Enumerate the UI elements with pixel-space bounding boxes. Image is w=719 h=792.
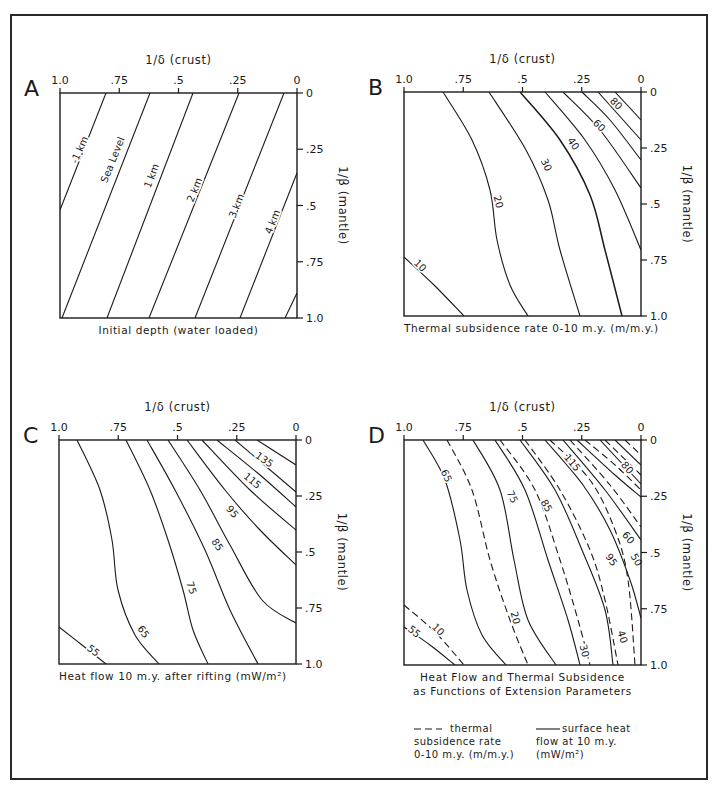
- contour-label: 20: [492, 194, 506, 209]
- contour-line-80: [625, 440, 641, 455]
- plot-frame: [59, 440, 296, 664]
- legend-solid-line1: surface heat: [562, 723, 631, 734]
- contour-label: 60: [591, 117, 608, 134]
- y-tick-label: .75: [305, 602, 323, 615]
- contour-label: 2 km: [185, 176, 205, 203]
- x-axis-label: 1/δ (crust): [144, 400, 210, 414]
- contour-line-1-km: [107, 93, 193, 318]
- y-tick-label: 1.0: [306, 312, 324, 325]
- contour-line: [147, 440, 258, 664]
- y-tick-label: .25: [650, 490, 668, 503]
- y-tick-label: 0: [306, 87, 313, 100]
- contour-label: 85: [209, 536, 225, 553]
- contour-line-60: [600, 440, 641, 484]
- contour-label: 80: [608, 95, 625, 112]
- y-axis-label: 1/β (mantle): [680, 513, 694, 592]
- contour-label: 135: [253, 450, 275, 470]
- contour-label: 40: [615, 629, 629, 645]
- x-tick-label: .5: [172, 421, 183, 434]
- panel-caption: Heat flow 10 m.y. after rifting (mW/m²): [59, 670, 287, 682]
- contour-line-20: [447, 440, 528, 665]
- contour-line: [285, 293, 297, 318]
- contours: [60, 93, 297, 318]
- y-tick-label: .5: [650, 547, 661, 560]
- y-tick-label: 0: [650, 434, 657, 447]
- figure: -1 kmSea Level1 km2 km3 km4 km1.0.75.5.2…: [0, 0, 719, 792]
- y-tick-label: 0: [650, 86, 657, 99]
- contour-label: 40: [565, 135, 581, 152]
- panel-label: A: [24, 76, 39, 101]
- contour-label: 3 km: [227, 192, 247, 219]
- contour-line-20: [443, 92, 528, 316]
- x-tick-label: .5: [517, 73, 528, 86]
- contour-line: [545, 92, 641, 250]
- contour-label: 115: [241, 470, 263, 491]
- contour-line-55: [59, 627, 106, 664]
- legend-solid-line3: (mW/m²): [536, 749, 584, 760]
- contour-line-85: [168, 440, 296, 623]
- x-tick-label: .75: [111, 74, 129, 87]
- contour-line-4-km: [240, 173, 297, 318]
- panel-A: -1 kmSea Level1 km2 km3 km4 km1.0.75.5.2…: [24, 53, 350, 336]
- contour-label: 10: [430, 621, 447, 638]
- y-axis-label: 1/β (mantle): [335, 513, 349, 592]
- contour-line-50: [570, 440, 641, 527]
- panel-caption-subtitle: as Functions of Extension Parameters: [413, 685, 632, 697]
- contour-label: 60: [620, 529, 637, 546]
- x-tick-label: 1.0: [395, 421, 413, 434]
- contour-label: 75: [505, 489, 520, 505]
- x-axis-label: 1/δ (crust): [489, 400, 555, 414]
- x-tick-label: .25: [573, 421, 591, 434]
- panel-label: C: [23, 423, 38, 448]
- legend-dashed-line2: subsidence rate: [414, 736, 501, 747]
- contour-label: -1 km: [69, 134, 91, 165]
- contour-label: 30: [578, 643, 592, 658]
- panel-caption: Heat Flow and Thermal Subsidence: [420, 671, 625, 683]
- contour-line-115: [217, 440, 296, 507]
- x-tick-label: .75: [455, 421, 473, 434]
- x-tick-label: 0: [294, 74, 301, 87]
- panel-label: B: [368, 75, 383, 100]
- x-tick-label: 0: [293, 421, 300, 434]
- y-tick-label: .25: [306, 143, 324, 156]
- panels: -1 kmSea Level1 km2 km3 km4 km1.0.75.5.2…: [23, 52, 694, 697]
- legend-dashed-line1: thermal: [450, 723, 493, 734]
- contour-label: 80: [619, 459, 636, 476]
- panel-B: 1020304060801.0.75.5.2500.25.5.751.01/δ …: [368, 52, 694, 334]
- panel-C: 55657585951151351.0.75.5.2500.25.5.751.0…: [23, 400, 349, 682]
- panel-caption: Initial depth (water loaded): [98, 324, 258, 336]
- x-tick-label: .25: [229, 74, 247, 87]
- x-tick-label: .25: [573, 73, 591, 86]
- y-tick-label: .25: [650, 142, 668, 155]
- x-tick-label: .5: [517, 421, 528, 434]
- panel-caption: Thermal subsidence rate 0-10 m.y. (m/m.y…: [403, 322, 659, 334]
- legend-dashed-line3: 0-10 m.y. (m/m.y.): [414, 749, 514, 760]
- x-tick-label: 1.0: [50, 421, 68, 434]
- contour-label: 10: [412, 257, 429, 274]
- y-tick-label: .25: [305, 490, 323, 503]
- contour-label: 4 km: [263, 208, 283, 235]
- y-tick-label: .5: [305, 546, 316, 559]
- panel-label: D: [368, 423, 385, 448]
- contour-label: 20: [509, 610, 523, 625]
- y-tick-label: 1.0: [650, 659, 668, 672]
- contour-line-95: [563, 440, 641, 540]
- legend: thermal subsidence rate 0-10 m.y. (m/m.y…: [414, 723, 631, 760]
- legend-solid-line2: flow at 10 m.y.: [536, 736, 617, 747]
- x-tick-label: 0: [638, 421, 645, 434]
- x-tick-label: 1.0: [395, 73, 413, 86]
- contour-label: 55: [85, 642, 102, 659]
- x-tick-label: .75: [455, 73, 473, 86]
- y-axis-label: 1/β (mantle): [336, 166, 350, 245]
- contours: [59, 440, 296, 664]
- contour-line: [495, 440, 580, 665]
- y-axis-label: 1/β (mantle): [680, 165, 694, 244]
- panel-D: 5510652075853040955011560801.0.75.5.2500…: [368, 400, 694, 697]
- contour-label: 85: [538, 497, 554, 514]
- y-tick-label: .5: [306, 200, 317, 213]
- x-tick-label: .25: [228, 421, 246, 434]
- y-tick-label: .75: [306, 256, 324, 269]
- contour-label: 65: [135, 623, 151, 640]
- contour-line-2-km: [149, 93, 239, 318]
- contour-line-sea-level: [62, 93, 150, 318]
